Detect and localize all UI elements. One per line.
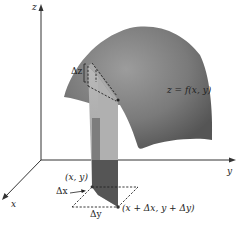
y-axis-label: y xyxy=(227,167,232,176)
surface-corner-dot xyxy=(116,98,119,101)
delta-z-label: Δz xyxy=(71,67,82,76)
column-left-mid xyxy=(92,118,100,160)
z-axis-label: z xyxy=(32,3,37,12)
base-corner-dot xyxy=(116,205,120,209)
y-axis-arrow-icon xyxy=(229,158,236,163)
x-axis xyxy=(5,160,41,197)
point-dx-dy-label: (x + Δx, y + Δy) xyxy=(122,204,195,213)
delta-x-label: Δx xyxy=(56,187,68,196)
surface-volume-diagram: z y x z = f(x, y) Δz (x, y) Δx Δy (x + Δ… xyxy=(0,0,240,230)
delta-x-arrowhead-icon xyxy=(81,189,86,193)
point-xy-label: (x, y) xyxy=(65,173,88,182)
delta-y-label: Δy xyxy=(90,210,102,219)
diagram-canvas xyxy=(0,0,240,230)
x-axis-label: x xyxy=(11,200,16,209)
z-axis-arrow-icon xyxy=(39,4,44,11)
surface-equation-label: z = f(x, y) xyxy=(167,86,211,95)
base-origin-dot xyxy=(91,186,94,189)
column-shadow-face xyxy=(92,160,118,207)
